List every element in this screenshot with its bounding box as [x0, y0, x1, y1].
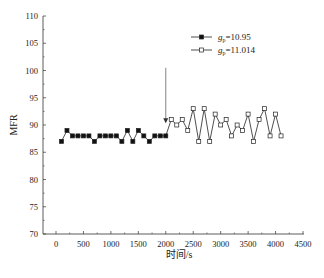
filled-square-marker — [76, 134, 80, 138]
open-square-marker — [224, 118, 228, 122]
filled-square-marker — [153, 134, 157, 138]
open-square-marker — [191, 107, 195, 111]
filled-square-marker — [103, 134, 107, 138]
filled-square-marker — [65, 128, 69, 132]
filled-square-marker — [120, 139, 124, 143]
legend-label: gp=10.95 — [218, 32, 251, 43]
x-tick-label: 1000 — [102, 239, 119, 249]
open-square-marker — [208, 139, 212, 143]
filled-square-marker — [81, 134, 85, 138]
switch-arrow-annotation — [163, 68, 168, 124]
open-square-marker — [274, 112, 278, 116]
x-tick-label: 1500 — [130, 239, 147, 249]
axes — [43, 16, 304, 234]
open-square-marker — [169, 118, 173, 122]
x-tick-label: 500 — [77, 239, 90, 249]
open-square-marker — [252, 139, 256, 143]
y-tick-label: 95 — [30, 93, 39, 103]
filled-square-marker — [92, 139, 96, 143]
open-square-marker — [197, 139, 201, 143]
filled-square-marker — [164, 134, 168, 138]
legend-item: gp=10.95 — [191, 32, 251, 43]
y-tick-label: 110 — [26, 11, 38, 21]
filled-square-marker — [70, 134, 74, 138]
y-axis-label: MFR — [8, 114, 19, 135]
legend-item: gp=11.014 — [191, 45, 255, 56]
x-tick-label: 3500 — [240, 239, 257, 249]
filled-square-marker — [136, 128, 140, 132]
open-square-marker — [235, 123, 239, 127]
open-square-marker — [230, 134, 234, 138]
series-2 — [169, 107, 283, 144]
filled-square-marker — [200, 35, 204, 39]
open-square-marker — [219, 123, 223, 127]
x-tick-label: 2000 — [157, 239, 174, 249]
filled-square-marker — [114, 134, 118, 138]
open-square-marker — [175, 123, 179, 127]
x-tick-label: 4500 — [295, 239, 312, 249]
legend-label: gp=11.014 — [218, 45, 255, 56]
x-axis-label: 时间/s — [166, 248, 193, 260]
open-square-marker — [257, 118, 261, 122]
y-tick-label: 75 — [30, 202, 39, 212]
y-tick-label: 105 — [25, 38, 38, 48]
filled-square-marker — [142, 134, 146, 138]
data-series — [59, 107, 283, 144]
open-square-marker — [246, 112, 250, 116]
open-square-marker — [263, 107, 267, 111]
open-square-marker — [268, 134, 272, 138]
open-square-marker — [186, 128, 190, 132]
legend: gp=10.95gp=11.014 — [191, 32, 255, 56]
filled-square-marker — [87, 134, 91, 138]
y-tick-label: 100 — [25, 66, 38, 76]
y-tick-label: 90 — [30, 120, 39, 130]
open-square-marker — [241, 128, 245, 132]
y-tick-label: 70 — [30, 229, 39, 239]
filled-square-marker — [109, 134, 113, 138]
open-square-marker — [200, 48, 204, 52]
y-tick-label: 80 — [30, 175, 39, 185]
open-square-marker — [279, 134, 283, 138]
filled-square-marker — [147, 139, 151, 143]
filled-square-marker — [158, 134, 162, 138]
x-tick-label: 0 — [54, 239, 58, 249]
filled-square-marker — [59, 139, 63, 143]
filled-square-marker — [131, 139, 135, 143]
x-tick-label: 2500 — [185, 239, 202, 249]
open-square-marker — [202, 107, 206, 111]
filled-square-marker — [98, 134, 102, 138]
open-square-marker — [180, 118, 184, 122]
line-chart: 050010001500200025003000350040004500 707… — [0, 0, 324, 278]
x-tick-label: 4000 — [267, 239, 284, 249]
y-tick-label: 85 — [30, 147, 39, 157]
x-tick-label: 3000 — [212, 239, 229, 249]
open-square-marker — [213, 112, 217, 116]
filled-square-marker — [125, 128, 129, 132]
